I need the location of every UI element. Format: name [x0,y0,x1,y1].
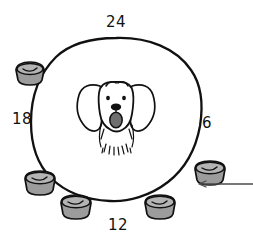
hour-label-18: 18 [12,110,32,128]
hour-label-12: 12 [108,216,128,234]
bowl-2 [25,171,55,195]
bowl-2-rim [26,172,54,184]
dog-eye-right [122,96,126,101]
bowl-1 [16,62,44,85]
dog-eye-left [106,96,110,101]
bowl-3 [61,195,91,219]
bowl-4-rim [146,196,174,208]
bowl-1-rim [17,64,43,75]
bowl-5 [195,161,225,185]
drawing-surface: 24 6 12 18 [0,0,253,234]
bowl-5-rim [196,162,224,174]
illustration-canvas: 24 6 12 18 [0,0,253,234]
hour-label-24: 24 [106,13,126,31]
bowl-4 [145,195,175,219]
bowl-3-rim [62,196,90,208]
dog-tongue [110,112,122,128]
hour-label-6: 6 [202,114,212,132]
